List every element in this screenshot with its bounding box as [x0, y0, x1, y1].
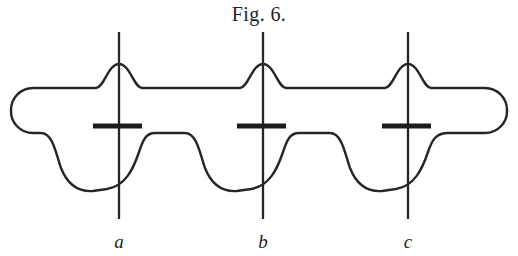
tube-top-outline	[11, 64, 507, 110]
figure-root: Fig. 6. a b c	[0, 0, 518, 256]
electrode-label-b: b	[258, 231, 268, 252]
electrode-label-a: a	[114, 231, 124, 252]
electrode-label-c: c	[404, 231, 413, 252]
tube-bottom-outline	[11, 110, 507, 191]
discharge-tube-illustration: a b c	[0, 0, 518, 256]
